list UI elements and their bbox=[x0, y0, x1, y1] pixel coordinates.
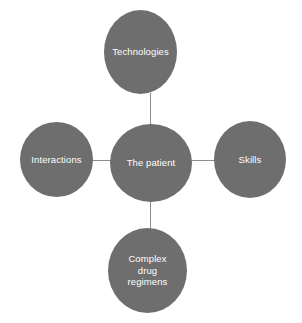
connector-center-to-interactions bbox=[92, 160, 111, 161]
node-technologies-label: Technologies bbox=[109, 46, 172, 58]
connector-center-to-complex-drug-regimens bbox=[150, 201, 151, 229]
connector-center-to-skills bbox=[191, 160, 215, 161]
connector-center-to-technologies bbox=[150, 93, 151, 125]
node-interactions: Interactions bbox=[20, 122, 93, 197]
node-technologies: Technologies bbox=[104, 10, 177, 94]
node-the-patient-label: The patient bbox=[124, 157, 179, 169]
concept-map-diagram: Technologies Interactions The patient Sk… bbox=[0, 0, 302, 323]
node-complex-drug-regimens: Complex drug regimens bbox=[108, 228, 187, 313]
node-skills-label: Skills bbox=[236, 154, 265, 166]
node-the-patient: The patient bbox=[110, 124, 192, 202]
node-interactions-label: Interactions bbox=[28, 154, 84, 166]
node-skills: Skills bbox=[214, 121, 286, 198]
node-complex-drug-regimens-label: Complex drug regimens bbox=[125, 253, 171, 288]
cropped-caption-remnant bbox=[0, 316, 302, 323]
